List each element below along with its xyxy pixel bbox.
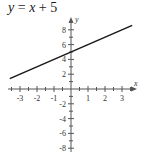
x-tick-label: -1 bbox=[51, 94, 58, 103]
plot-area: xy-3-2-1123-8-6-4-22468 bbox=[0, 0, 145, 155]
x-tick-label: 1 bbox=[86, 94, 90, 103]
axes: xy-3-2-1123-8-6-4-22468 bbox=[8, 15, 138, 153]
y-axis-arrow-icon bbox=[69, 17, 74, 23]
y-tick-label: 2 bbox=[62, 70, 66, 79]
x-tick-label: -3 bbox=[17, 94, 24, 103]
y-tick-label: 8 bbox=[62, 26, 66, 35]
y-tick-label: -8 bbox=[59, 144, 66, 153]
y-tick-label: -6 bbox=[59, 129, 66, 138]
x-tick-label: -2 bbox=[34, 94, 41, 103]
x-axis-label: x bbox=[133, 79, 138, 88]
y-tick-label: -2 bbox=[59, 100, 66, 109]
y-tick-label: -4 bbox=[59, 115, 66, 124]
y-tick-label: 4 bbox=[62, 55, 66, 64]
y-axis-label: y bbox=[74, 15, 79, 24]
x-tick-label: 3 bbox=[120, 94, 124, 103]
y-tick-label: 6 bbox=[62, 41, 66, 50]
x-tick-label: 2 bbox=[103, 94, 107, 103]
